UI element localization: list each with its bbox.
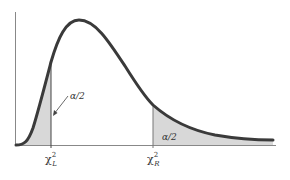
left-tail-shaded-area <box>16 62 51 145</box>
chi-square-chart: α/2 α/2 χ2L χ2R <box>0 0 290 180</box>
left-alpha-label: α/2 <box>70 91 85 101</box>
x-tick-label-chi2-L: χ2L <box>45 151 57 168</box>
annotation-arrow <box>54 96 68 114</box>
density-curve <box>16 20 273 145</box>
right-alpha-label: α/2 <box>162 132 177 142</box>
x-tick-label-chi2-R: χ2R <box>147 151 160 168</box>
